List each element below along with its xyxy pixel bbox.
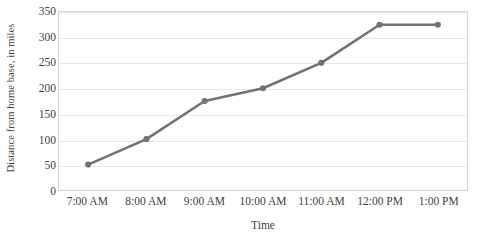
y-tick-label: 300 — [18, 31, 56, 43]
y-tick-label: 350 — [18, 5, 56, 17]
x-tick-label: 12:00 PM — [357, 195, 403, 207]
x-tick-label: 9:00 AM — [184, 195, 225, 207]
data-point-marker — [143, 136, 149, 142]
x-tick-label: 10:00 AM — [240, 195, 287, 207]
data-point-marker — [260, 85, 266, 91]
y-tick-label: 150 — [18, 108, 56, 120]
y-tick-label: 0 — [18, 185, 56, 197]
x-tick-label: 1:00 PM — [419, 195, 459, 207]
x-axis-title: Time — [58, 219, 468, 231]
data-point-marker — [318, 60, 324, 66]
y-tick-label: 100 — [18, 134, 56, 146]
data-point-marker — [85, 162, 91, 168]
x-tick-label: 7:00 AM — [67, 195, 108, 207]
line-chart: Distance from home base, in miles 050100… — [0, 0, 483, 244]
y-tick-label: 50 — [18, 159, 56, 171]
data-point-marker — [202, 98, 208, 104]
y-tick-label: 250 — [18, 56, 56, 68]
plot-area — [58, 11, 468, 191]
data-point-marker — [435, 22, 441, 28]
data-series-line — [59, 12, 467, 190]
series-markers — [85, 22, 441, 168]
y-axis-tick-labels: 050100150200250300350 — [18, 4, 56, 191]
data-point-marker — [376, 22, 382, 28]
x-axis-tick-labels: 7:00 AM8:00 AM9:00 AM10:00 AM11:00 AM12:… — [58, 195, 468, 213]
y-tick-label: 200 — [18, 82, 56, 94]
x-tick-label: 11:00 AM — [298, 195, 345, 207]
y-axis-title: Distance from home base, in miles — [2, 0, 18, 196]
series-polyline — [88, 25, 438, 165]
x-tick-label: 8:00 AM — [125, 195, 166, 207]
